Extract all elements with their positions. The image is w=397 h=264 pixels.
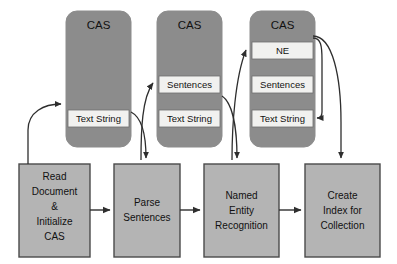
cas-2-title: CAS (178, 19, 202, 31)
process-step-parse-sentences: Parse Sentences (114, 164, 180, 257)
pipeline-diagram: CAS Text String CAS Sentences Text Strin… (0, 0, 397, 264)
parse-sentences-box (114, 164, 180, 257)
read-document-line-2: Document (32, 186, 78, 197)
arrow-parse-to-cas2-sentences (141, 83, 153, 160)
cas-3-title: CAS (271, 19, 295, 31)
cas-3-band-sentences-label: Sentences (260, 79, 305, 90)
arrow-cas1-to-parse-sentences (131, 112, 146, 158)
ner-line-3: Recognition (215, 220, 268, 231)
read-document-line-3: & (51, 201, 58, 212)
process-step-named-entity-recognition: Named Entity Recognition (204, 164, 279, 257)
create-index-line-1: Create (327, 190, 357, 201)
read-document-line-4: Initialize (36, 216, 73, 227)
diagram-canvas: CAS Text String CAS Sentences Text Strin… (0, 0, 397, 264)
read-document-line-5: CAS (44, 231, 65, 242)
cas-structure-2: CAS Sentences Text String (157, 11, 222, 147)
parse-sentences-line-2: Sentences (123, 212, 170, 223)
ner-line-1: Named (225, 190, 257, 201)
create-index-line-3: Collection (321, 220, 365, 231)
cas-structure-1: CAS Text String (66, 11, 131, 147)
arrow-read-to-cas1-text-string (28, 104, 61, 164)
ner-line-2: Entity (229, 205, 254, 216)
cas-structure-3: CAS NE Sentences Text String (250, 11, 315, 147)
arrow-cas3-to-create-index (313, 36, 341, 158)
cas-2-band-sentences-label: Sentences (167, 79, 212, 90)
cas-2-band-text-string-label: Text String (167, 113, 212, 124)
arrow-ner-to-cas3-ne (232, 50, 246, 160)
create-index-line-2: Index for (323, 205, 363, 216)
cas-1-title: CAS (87, 19, 111, 31)
parse-sentences-line-1: Parse (134, 197, 161, 208)
read-document-line-1: Read (43, 171, 67, 182)
process-step-read-document: Read Document & Initialize CAS (19, 164, 90, 257)
cas-3-band-ne-label: NE (276, 45, 289, 56)
cas-3-band-text-string-label: Text String (260, 113, 305, 124)
cas-1-band-text-string-label: Text String (76, 113, 121, 124)
process-step-create-index: Create Index for Collection (305, 164, 380, 257)
